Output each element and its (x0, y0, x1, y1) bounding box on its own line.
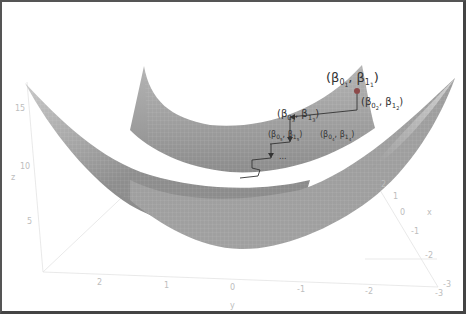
svg-text:2: 2 (381, 180, 386, 189)
svg-text:z: z (11, 173, 15, 182)
svg-text:y: y (230, 301, 235, 310)
y-axis-ticks: 2 1 0 -1 -2 -3 y (97, 278, 443, 310)
svg-text:-2: -2 (365, 287, 373, 296)
svg-text:x: x (427, 208, 432, 217)
svg-text:-2: -2 (425, 251, 433, 260)
svg-text:10: 10 (20, 162, 30, 171)
svg-text:-3: -3 (435, 289, 443, 298)
svg-text:-1: -1 (297, 285, 305, 294)
start-point-marker (354, 88, 360, 94)
ellipsis: ... (279, 152, 287, 161)
svg-text:2: 2 (97, 278, 102, 287)
svg-text:15: 15 (15, 104, 25, 113)
x-axis-ticks: 2 1 0 -1 -2 -3 x (381, 180, 451, 289)
z-axis-ticks: 15 10 5 z (11, 104, 32, 226)
svg-text:0: 0 (230, 283, 235, 292)
svg-text:-3: -3 (443, 280, 451, 289)
surface-grid (25, 65, 455, 249)
svg-text:1: 1 (164, 281, 169, 290)
svg-text:5: 5 (27, 217, 32, 226)
svg-text:1: 1 (393, 192, 398, 201)
svg-text:-1: -1 (411, 227, 419, 236)
svg-text:0: 0 (400, 208, 405, 217)
